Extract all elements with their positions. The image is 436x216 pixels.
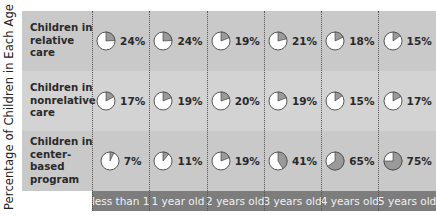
data-cell: 19%	[207, 11, 264, 71]
percentage-value: 21%	[292, 35, 317, 47]
data-cell: 75%	[379, 131, 436, 191]
pie-chart-icon	[325, 91, 345, 111]
pie-chart-icon	[383, 31, 403, 51]
data-cell: 19%	[264, 71, 321, 131]
row-label: Children in relative care	[30, 11, 94, 71]
data-cell: 41%	[264, 131, 321, 191]
x-axis-label: less than 1	[92, 191, 149, 211]
data-cell: 19%	[149, 71, 206, 131]
data-cell: 65%	[321, 131, 378, 191]
percentage-value: 18%	[349, 35, 374, 47]
column-divider	[378, 11, 379, 211]
row-label: Children in center-based program	[30, 131, 94, 191]
x-axis-label: 5 years old	[379, 191, 436, 211]
x-axis-label: 2 years old	[207, 191, 264, 211]
data-cell: 17%	[92, 71, 149, 131]
column-divider	[92, 11, 93, 211]
percentage-value: 20%	[235, 95, 260, 107]
pie-chart-icon	[153, 91, 173, 111]
percentage-value: 17%	[120, 95, 145, 107]
pie-chart-icon	[268, 31, 288, 51]
pie-chart-icon	[325, 151, 345, 171]
data-cell: 11%	[149, 131, 206, 191]
data-cell: 15%	[379, 11, 436, 71]
percentage-value: 75%	[407, 155, 432, 167]
pie-chart-icon	[153, 31, 173, 51]
data-cell: 20%	[207, 71, 264, 131]
percentage-value: 19%	[177, 95, 202, 107]
percentage-value: 7%	[124, 155, 142, 167]
data-cell: 19%	[207, 131, 264, 191]
data-cell: 18%	[321, 11, 378, 71]
pie-chart-icon	[325, 31, 345, 51]
x-axis-label: 4 years old	[321, 191, 378, 211]
x-axis-label: 1 year old	[149, 191, 206, 211]
percentage-value: 11%	[177, 155, 202, 167]
pie-chart-icon	[96, 31, 116, 51]
percentage-value: 19%	[235, 35, 260, 47]
percentage-value: 24%	[120, 35, 145, 47]
data-cell: 21%	[264, 11, 321, 71]
pie-chart-icon	[383, 151, 403, 171]
percentage-value: 15%	[349, 95, 374, 107]
percentage-value: 17%	[407, 95, 432, 107]
x-axis-label: 3 years old	[264, 191, 321, 211]
pie-chart-icon	[153, 151, 173, 171]
percentage-value: 24%	[177, 35, 202, 47]
column-divider	[321, 11, 322, 211]
data-cell: 17%	[379, 71, 436, 131]
percentage-value: 15%	[407, 35, 432, 47]
row-nonrelative-care: Children in nonrelative care 17%19%20%19…	[22, 71, 436, 131]
pie-chart-icon	[96, 91, 116, 111]
data-cell: 24%	[92, 11, 149, 71]
pie-chart-icon	[211, 31, 231, 51]
column-divider	[149, 11, 150, 211]
pie-chart-icon	[268, 91, 288, 111]
percentage-value: 19%	[292, 95, 317, 107]
row-center-based-program: Children in center-based program 7%11%19…	[22, 131, 436, 191]
data-cell: 24%	[149, 11, 206, 71]
pie-chart-icon	[100, 151, 120, 171]
data-cell: 7%	[92, 131, 149, 191]
row-relative-care: Children in relative care 24%24%19%21%18…	[22, 11, 436, 71]
percentage-value: 41%	[292, 155, 317, 167]
pie-chart-icon	[211, 151, 231, 171]
pie-chart-icon	[383, 91, 403, 111]
row-label: Children in nonrelative care	[30, 71, 94, 131]
y-axis-label: Percentage of Children in Each Age Group…	[2, 10, 22, 210]
data-cell: 15%	[321, 71, 378, 131]
column-divider	[264, 11, 265, 211]
column-divider	[207, 11, 208, 211]
percentage-value: 19%	[235, 155, 260, 167]
pie-chart-icon	[211, 91, 231, 111]
pie-chart-icon	[268, 151, 288, 171]
percentage-value: 65%	[349, 155, 374, 167]
